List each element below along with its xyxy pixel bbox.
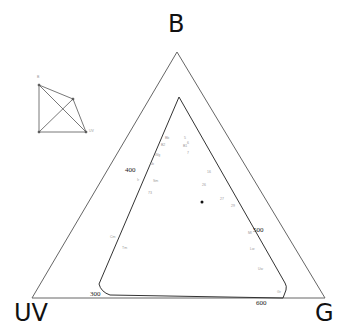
point-label: 6 — [187, 142, 189, 146]
wavelength-label-400: 400 — [125, 167, 136, 174]
inset-label-uv: UV — [89, 130, 94, 134]
point-label: B1 — [183, 145, 187, 149]
point-label: Wg — [155, 154, 160, 158]
vertex-label-uv: UV — [14, 301, 48, 325]
point-label: 5b — [150, 163, 154, 167]
point-label: Cm — [110, 236, 115, 240]
point-label: Uw — [258, 268, 263, 272]
point-label: 5 — [184, 137, 186, 141]
point-label: 29 — [231, 205, 235, 209]
point-label: 27 — [220, 198, 224, 202]
point-label: Ml — [248, 232, 252, 236]
white-point-marker — [201, 201, 204, 204]
point-label: Tm — [122, 247, 127, 251]
point-label: Bb — [165, 137, 169, 141]
point-label: 7 — [187, 152, 189, 156]
point-label: 26 — [202, 184, 206, 188]
vertex-label-b: B — [168, 12, 184, 36]
inset-diagram — [38, 84, 87, 133]
outer-triangle — [32, 52, 325, 298]
point-label: Lw — [250, 248, 254, 252]
point-label: Sm — [153, 180, 158, 184]
point-label: Gr — [277, 291, 281, 295]
inset-label-b: B — [37, 76, 39, 80]
wavelength-label-600: 600 — [256, 300, 267, 307]
vertex-label-g: G — [315, 301, 334, 325]
wavelength-label-300: 300 — [90, 291, 101, 298]
point-label: Ir — [137, 179, 139, 183]
color-triangle-diagram — [0, 0, 349, 336]
wavelength-label-500: 500 — [253, 227, 264, 234]
point-label: B2 — [161, 144, 165, 148]
point-label: 16 — [207, 171, 211, 175]
point-label: 73 — [148, 192, 152, 196]
